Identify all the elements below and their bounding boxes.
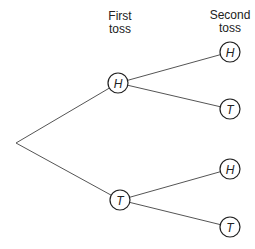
svg-text:H: H bbox=[226, 46, 235, 60]
svg-text:H: H bbox=[114, 77, 123, 91]
svg-text:H: H bbox=[226, 163, 235, 177]
first-toss-node-h: H bbox=[108, 73, 128, 93]
branch-h-to-t bbox=[128, 85, 221, 106]
tree-graphic: HTHTHT bbox=[0, 0, 255, 249]
branch-h-to-h bbox=[128, 55, 221, 81]
first-toss-node-t: T bbox=[110, 190, 130, 210]
branch-t-to-h bbox=[130, 172, 221, 198]
branch-root-to-first-t bbox=[16, 143, 111, 195]
second-toss-node-th: H bbox=[220, 159, 240, 179]
second-toss-node-hh: H bbox=[220, 42, 240, 62]
branch-t-to-t bbox=[130, 202, 221, 224]
second-toss-node-ht: T bbox=[220, 99, 240, 119]
second-toss-node-tt: T bbox=[220, 217, 240, 237]
branch-root-to-first-h bbox=[16, 88, 109, 143]
coin-toss-tree-diagram: First toss Second toss HTHTHT bbox=[0, 0, 255, 249]
